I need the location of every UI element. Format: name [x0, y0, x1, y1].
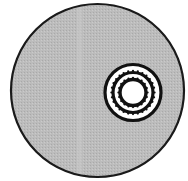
light-band: [77, 0, 82, 181]
bead-dot: [111, 96, 113, 98]
bead-dot: [137, 70, 139, 72]
bead-dot: [145, 75, 147, 77]
bead-dot: [140, 103, 142, 105]
bead-dot: [120, 100, 122, 102]
bead-dot: [118, 87, 120, 89]
bead-dot: [123, 80, 125, 82]
bead-dot: [132, 70, 134, 72]
bead-dot: [132, 106, 134, 108]
inner-ring: [120, 80, 146, 106]
bead-dot: [153, 87, 155, 89]
bead-dot: [145, 108, 147, 110]
bead-dot: [127, 112, 129, 114]
target-rings: [105, 65, 161, 121]
bead-dot: [144, 100, 146, 102]
bead-dot: [110, 91, 112, 93]
bead-dot: [117, 91, 119, 93]
bead-dot: [141, 111, 143, 113]
bead-dot: [127, 70, 129, 72]
bead-dot: [136, 105, 138, 107]
bead-dot: [146, 96, 148, 98]
bead-dot: [147, 91, 149, 93]
bead-dot: [123, 111, 125, 113]
bead-dot: [118, 75, 120, 77]
bead-dot: [154, 91, 156, 93]
bead-dot: [111, 87, 113, 89]
bead-dot: [141, 72, 143, 74]
bead-dot: [149, 78, 151, 80]
bead-dot: [127, 105, 129, 107]
bead-dot: [144, 83, 146, 85]
bead-dot: [151, 101, 153, 103]
bead-dot: [132, 113, 134, 115]
bead-dot: [137, 112, 139, 114]
bead-dot: [123, 72, 125, 74]
bead-dot: [115, 78, 117, 80]
bead-dot: [120, 83, 122, 85]
bead-dot: [112, 82, 114, 84]
bead-dot: [153, 96, 155, 98]
bead-dot: [118, 96, 120, 98]
bead-dot: [149, 105, 151, 107]
diagram-canvas: [0, 0, 188, 181]
bead-dot: [115, 105, 117, 107]
bead-dot: [146, 87, 148, 89]
bead-dot: [140, 80, 142, 82]
bead-dot: [127, 78, 129, 80]
bead-dot: [136, 78, 138, 80]
bead-dot: [112, 101, 114, 103]
bead-dot: [123, 103, 125, 105]
bead-dot: [151, 82, 153, 84]
bead-dot: [132, 77, 134, 79]
bead-dot: [118, 108, 120, 110]
